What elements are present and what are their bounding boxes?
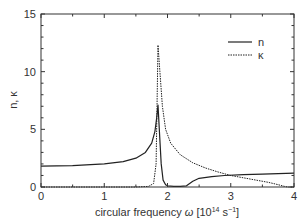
y-tick-label: 5 [30, 123, 36, 135]
legend-label-kappa: κ [258, 49, 264, 61]
legend: n κ [228, 36, 264, 61]
y-axis-label: n, κ [7, 91, 19, 109]
legend-label-n: n [258, 36, 264, 48]
plot-area [41, 45, 294, 187]
x-unit-exp2: −1 [228, 206, 236, 213]
x-tick-label: 3 [228, 190, 234, 202]
x-tick-label: 4 [291, 190, 297, 202]
x-tick-label: 2 [164, 190, 170, 202]
x-axis-label-text: circular frequency [95, 206, 185, 218]
y-tick-label: 0 [30, 181, 36, 193]
x-axis-label: circular frequency ω [1014 s−1] [95, 206, 239, 218]
x-unit-exp1: 14 [212, 206, 220, 213]
tick-labels: 01234051015 [24, 8, 297, 202]
x-tick-label: 0 [38, 190, 44, 202]
x-unit-close: ] [236, 206, 239, 218]
y-tick-label: 10 [24, 66, 36, 78]
chart: 01234051015 n, κ circular frequency ω [1… [0, 0, 307, 224]
series-line-n [41, 105, 294, 186]
plot-frame [41, 14, 294, 187]
x-unit-open: [10 [193, 206, 211, 218]
y-tick-label: 15 [24, 8, 36, 20]
x-tick-label: 1 [101, 190, 107, 202]
axis-ticks [41, 14, 294, 187]
